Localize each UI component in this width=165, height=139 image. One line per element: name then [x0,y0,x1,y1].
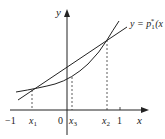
x-axis-label: x [136,114,142,126]
diagram-canvas: y x 0 −1 x1 x3 x2 1 y = p1*(x [0,0,165,139]
tick-label-x2: x2 [101,115,110,128]
line-label: y = p1*(x [129,17,164,31]
tick-label-x1: x1 [28,115,37,128]
tick-label-x3: x3 [68,115,77,128]
tick-label-one: 1 [117,115,122,126]
y-axis-arrow-icon [64,9,70,17]
origin-label: 0 [58,115,63,126]
tick-label-neg-one: −1 [5,115,16,126]
x-axis-arrow-icon [141,107,149,113]
y-axis-label: y [55,6,61,18]
